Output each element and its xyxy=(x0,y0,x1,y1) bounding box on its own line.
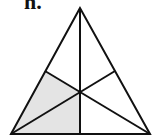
triangle-diagram xyxy=(0,0,153,138)
shaded-region xyxy=(11,71,80,134)
centroid-point xyxy=(79,91,82,94)
